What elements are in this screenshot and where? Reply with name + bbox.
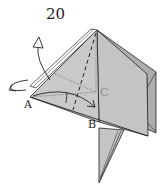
diagram-drawing xyxy=(0,0,164,189)
lower-spike xyxy=(99,128,124,183)
turn-over-arrow-icon xyxy=(9,80,28,91)
step-number: 20 xyxy=(46,7,65,22)
point-label-c: C xyxy=(100,87,108,98)
point-label-a: A xyxy=(24,99,32,110)
point-label-b: B xyxy=(88,119,96,130)
right-face xyxy=(97,30,148,136)
origami-diagram: 20 A B C xyxy=(0,0,164,189)
